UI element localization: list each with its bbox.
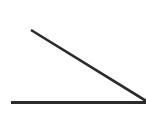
angle-diagram-svg	[0, 0, 146, 130]
angle-figure-canvas	[0, 0, 146, 130]
figure-background	[0, 0, 146, 130]
